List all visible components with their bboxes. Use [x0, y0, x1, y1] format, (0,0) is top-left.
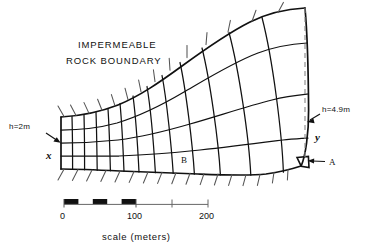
scale-tick-label-100: 100 [127, 211, 142, 221]
boundary-label-line1: IMPERMEABLE [78, 39, 157, 50]
point-a-label: A [329, 157, 336, 167]
scale-caption: scale (meters) [102, 231, 171, 242]
axis-y-label: y [313, 131, 320, 143]
scale-tick-label-200: 200 [199, 211, 214, 221]
boundary-label-line2: ROCK BOUNDARY [66, 55, 161, 66]
axis-x-label: x [45, 149, 52, 161]
mesh-equipotential-3 [84, 115, 85, 170]
diagram-root: IMPERMEABLE ROCK BOUNDARY h=2m h=4.9m A … [0, 0, 368, 252]
scale-tick-label-0: 0 [60, 211, 65, 221]
scale-segment-2 [93, 199, 107, 204]
flow-net-svg: IMPERMEABLE ROCK BOUNDARY h=2m h=4.9m A … [0, 0, 368, 252]
mesh-equipotential-2 [72, 117, 73, 170]
scale-segment-1 [64, 199, 78, 204]
point-b-label: B [181, 155, 187, 165]
scale-segment-3 [122, 199, 136, 204]
head-left-label: h=2m [9, 122, 30, 131]
head-right-label: h=4.9m [322, 105, 350, 114]
